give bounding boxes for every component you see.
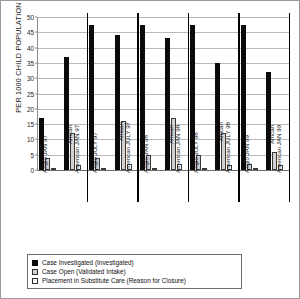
x-axis-label: AfricanAmerican JAN 99	[268, 125, 282, 173]
x-axis-label: Anglo JAN 99	[243, 135, 250, 173]
y-tick-label: 15	[27, 121, 34, 128]
x-axis-label: Anglo JAN 97	[41, 135, 48, 173]
y-tick-label: 0	[30, 167, 34, 174]
chart-legend: Case Investigated (Investigated)Case Ope…	[27, 254, 242, 289]
x-axis-label-cell: Anglo JULY 97	[87, 171, 112, 249]
y-tick-label: 20	[27, 105, 34, 112]
legend-swatch	[32, 260, 38, 266]
legend-item: Placement in Substitute Care (Reason for…	[32, 276, 237, 285]
x-axis-label-cell: AfricanAmerican JULY 97	[113, 171, 138, 249]
x-axis-label-cell: AfricanAmerican JAN 97	[62, 171, 87, 249]
x-axis-label: Anglo JULY 97	[91, 132, 98, 173]
x-axis-label: AfricanAmerican JAN 98	[167, 125, 181, 173]
y-tick-label: 5	[30, 151, 34, 158]
y-tick-label: 50	[27, 14, 34, 21]
x-axis-label: AfricanAmerican JULY 97	[117, 122, 131, 173]
bar	[202, 168, 207, 170]
y-axis-title: PER 1000 CHILD POPULATION	[14, 0, 23, 133]
x-axis-label-cell: AfricanAmerican JAN 99	[264, 171, 289, 249]
y-tick-label: 10	[27, 136, 34, 143]
legend-swatch	[32, 269, 38, 275]
x-axis-label-line2: American JULY 97	[124, 122, 131, 173]
x-axis-label-line2: American JULY 98	[224, 122, 231, 173]
y-tick-label: 35	[27, 59, 34, 66]
bar	[152, 168, 157, 170]
x-axis-label-line1: African	[268, 125, 275, 173]
bar	[101, 168, 106, 170]
x-axis-label-line1: African	[117, 122, 124, 173]
legend-label: Case Open (Validated Intake)	[42, 268, 126, 275]
legend-label: Placement in Substitute Care (Reason for…	[42, 277, 186, 284]
bar	[253, 168, 258, 170]
y-tick-label: 40	[27, 44, 34, 51]
x-axis-label-cell: Anglo JAN 99	[239, 171, 264, 249]
x-axis-label-cell: AfricanAmerican JAN 98	[163, 171, 188, 249]
x-axis-label: Anglo JAN 98	[142, 135, 149, 173]
x-axis-label-line2: American JAN 97	[73, 125, 80, 173]
y-tick-label: 30	[27, 75, 34, 82]
legend-swatch	[32, 278, 38, 284]
legend-item: Case Open (Validated Intake)	[32, 267, 237, 276]
x-axis-label-line2: American JAN 99	[275, 125, 282, 173]
chart-frame: PER 1000 CHILD POPULATION 05101520253035…	[0, 0, 300, 299]
x-axis-label-line2: American JAN 98	[174, 125, 181, 173]
x-axis-label-cell: Anglo JAN 98	[138, 171, 163, 249]
x-axis-labels: Anglo JAN 97AfricanAmerican JAN 97Anglo …	[37, 171, 289, 249]
x-axis-label-cell: Anglo JAN 97	[37, 171, 62, 249]
y-tick-label: 45	[27, 29, 34, 36]
x-axis-label: AfricanAmerican JAN 97	[66, 125, 80, 173]
legend-label: Case Investigated (Investigated)	[42, 259, 134, 266]
x-axis-label-cell: AfricanAmerican JULY 98	[213, 171, 238, 249]
x-axis-label-cell: Anglo JULY 98	[188, 171, 213, 249]
x-axis-label-line1: African	[167, 125, 174, 173]
x-axis-label: AfricanAmerican JULY 98	[217, 122, 231, 173]
bar	[51, 168, 56, 170]
legend-item: Case Investigated (Investigated)	[32, 258, 237, 267]
y-tick-label: 25	[27, 90, 34, 97]
x-axis-label: Anglo JULY 98	[192, 132, 199, 173]
